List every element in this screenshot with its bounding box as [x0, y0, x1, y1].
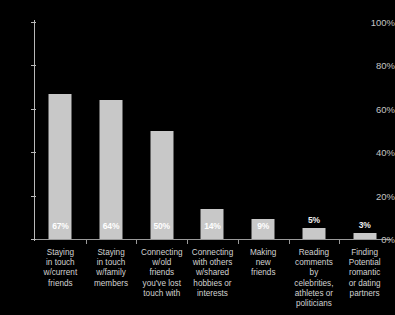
x-axis-tick-mark — [136, 239, 137, 244]
y-axis-tick-mark — [31, 239, 36, 240]
x-axis-tick-mark — [238, 239, 239, 244]
category-label: Staying in touch w/current friends — [35, 248, 86, 289]
bar-slot: 5% — [289, 22, 340, 239]
bar[interactable] — [302, 228, 325, 239]
bar-slot: 3% — [339, 22, 390, 239]
category-label: Finding Potential romantic or dating par… — [339, 248, 390, 299]
x-axis-tick-mark — [187, 239, 188, 244]
bar-value-label: 5% — [308, 215, 320, 225]
x-axis-category-labels: Staying in touch w/current friendsStayin… — [35, 248, 391, 312]
bar-value-label: 64% — [103, 221, 119, 231]
bar-value-label: 9% — [257, 221, 269, 231]
category-label: Staying in touch w/family members — [86, 248, 137, 289]
bar-value-label: 14% — [204, 221, 220, 231]
bar[interactable] — [49, 94, 72, 239]
bar-slot: 67% — [35, 22, 86, 239]
category-label: Connecting w/old friends you've lost tou… — [136, 248, 187, 299]
plot-area: 67%64%50%14%9%5%3% — [35, 22, 390, 239]
bar-slot: 50% — [136, 22, 187, 239]
x-axis-line — [35, 239, 391, 240]
bar-slot: 14% — [187, 22, 238, 239]
x-axis-tick-mark — [339, 239, 340, 244]
bar-slot: 9% — [238, 22, 289, 239]
category-label: Connecting with others w/shared hobbies … — [187, 248, 238, 299]
bar-value-label: 67% — [52, 221, 68, 231]
category-label: Making new friends — [238, 248, 289, 279]
bar[interactable] — [353, 233, 376, 240]
bar-value-label: 3% — [359, 220, 371, 230]
bar[interactable] — [100, 100, 123, 239]
bar-slot: 64% — [86, 22, 137, 239]
bar-chart: 0%20%40%60%80%100% 67%64%50%14%9%5%3% St… — [0, 0, 395, 315]
chart-title — [0, 0, 395, 2]
x-axis-tick-mark — [289, 239, 290, 244]
bar-value-label: 50% — [154, 221, 170, 231]
x-axis-tick-mark — [86, 239, 87, 244]
category-label: Reading comments by celebrities, athlete… — [289, 248, 340, 309]
